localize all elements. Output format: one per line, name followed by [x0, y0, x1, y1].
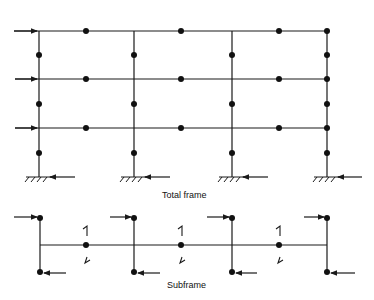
fixed-support-hatch: [25, 177, 340, 182]
total-frame-label: Total frame: [162, 190, 207, 200]
frame-diagram: [0, 0, 374, 300]
subframe-label: Subframe: [167, 280, 206, 290]
